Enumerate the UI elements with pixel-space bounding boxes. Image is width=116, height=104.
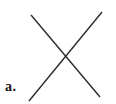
- figure-panel: a.: [0, 0, 116, 104]
- figure-label: a.: [5, 80, 17, 94]
- x-cross-figure: [0, 0, 116, 104]
